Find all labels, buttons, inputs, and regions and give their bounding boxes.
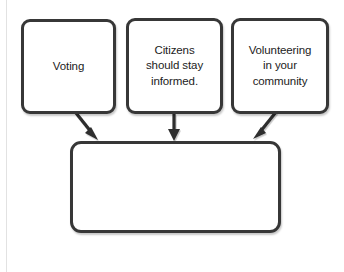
arrow-informed-to-result [168,114,180,141]
faint-footer-text [38,243,308,257]
diagram-canvas: Voting Citizens should stay informed. Vo… [0,0,344,272]
node-citizens-should-stay-informed-label: Citizens should stay informed. [145,43,204,90]
node-volunteering-in-your-community[interactable]: Volunteering in your community [231,18,329,114]
node-voting-label: Voting [52,59,85,75]
node-voting[interactable]: Voting [21,19,116,114]
node-empty-answer-box[interactable] [70,141,281,233]
arrow-volunteering-to-result [253,112,276,139]
arrow-voting-to-result [76,113,98,140]
node-volunteering-in-your-community-label: Volunteering in your community [248,43,313,90]
node-citizens-should-stay-informed[interactable]: Citizens should stay informed. [126,18,223,114]
